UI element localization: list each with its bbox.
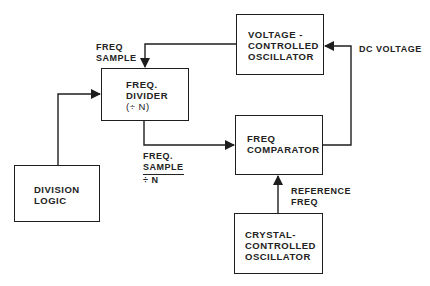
reference-freq-label: REFERENCE FREQ [291,186,351,208]
vco-label-line1: VOLTAGE - [248,29,319,40]
connection-wires [0,0,430,286]
freq-sample-line2: SAMPLE [96,53,137,64]
vco-block: VOLTAGE - CONTROLLED OSCILLATOR [236,14,324,75]
divider-label-line3: (÷ N) [126,101,168,112]
vco-label-line3: OSCILLATOR [248,51,319,62]
comparator-label-line2: COMPARATOR [247,144,320,155]
freq-sample-line1: FREQ [96,42,137,53]
freq-sample-div-n-denominator: ÷ N [143,175,184,186]
divider-to-comparator-arrow [144,121,234,145]
freq-comparator-block: FREQ COMPARATOR [235,115,323,175]
dc-voltage-text: DC VOLTAGE [359,44,422,55]
division-logic-label-line2: LOGIC [34,195,80,206]
freq-sample-label: FREQ SAMPLE [96,42,137,64]
freq-sample-div-n-label: FREQ. SAMPLE ÷ N [143,151,184,186]
vco-to-divider-arrow [145,44,236,67]
crystal-label-line2: CONTROLLED [245,240,316,251]
divider-label-line1: FREQ. [126,79,168,90]
logic-to-divider-arrow [58,94,100,165]
comparator-to-vco-arrow [323,46,351,145]
reference-freq-line1: REFERENCE [291,186,351,197]
dc-voltage-label: DC VOLTAGE [359,44,422,55]
division-logic-block: DIVISION LOGIC [14,165,100,222]
vco-label-line2: CONTROLLED [248,40,319,51]
crystal-label-line1: CRYSTAL- [245,229,316,240]
comparator-label-line1: FREQ [247,133,320,144]
reference-freq-line2: FREQ [291,197,351,208]
division-logic-label-line1: DIVISION [34,184,80,195]
crystal-oscillator-block: CRYSTAL- CONTROLLED OSCILLATOR [234,213,323,274]
freq-sample-div-n-line1: FREQ. [143,151,184,162]
freq-divider-block: FREQ. DIVIDER (÷ N) [101,68,189,121]
divider-label-line2: DIVIDER [126,90,168,101]
freq-sample-div-n-line2: SAMPLE [143,162,184,175]
crystal-label-line3: OSCILLATOR [245,251,316,262]
